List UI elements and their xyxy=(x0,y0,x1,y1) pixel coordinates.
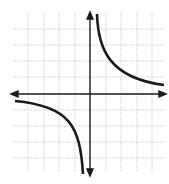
arrow-right-icon xyxy=(159,91,166,97)
hyperbola-branch-quadrant-3 xyxy=(15,101,83,174)
hyperbola-branch-quadrant-1 xyxy=(97,14,164,85)
x-axis xyxy=(11,91,166,97)
arrow-up-icon xyxy=(87,12,93,19)
hyperbola-chart xyxy=(0,0,169,184)
arrow-left-icon xyxy=(11,91,18,97)
arrow-down-icon xyxy=(87,169,93,176)
grid xyxy=(13,13,165,172)
